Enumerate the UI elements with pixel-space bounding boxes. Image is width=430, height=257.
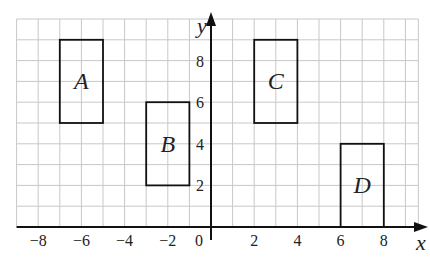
x-tick-label: −2 xyxy=(159,232,176,249)
axes: yx xyxy=(17,12,428,255)
x-tick-label: −4 xyxy=(116,232,133,249)
x-tick-label: 6 xyxy=(337,232,345,249)
y-tick-label: 2 xyxy=(196,177,204,194)
origin-label: 0 xyxy=(195,232,203,249)
x-tick-label: 4 xyxy=(293,232,301,249)
y-tick-label: 8 xyxy=(196,53,204,70)
x-tick-label: 2 xyxy=(250,232,258,249)
x-tick-label: −6 xyxy=(73,232,90,249)
coordinate-grid-diagram: yx ABCD −8−6−4−2246802468 xyxy=(0,0,430,257)
x-tick-label: −8 xyxy=(30,232,47,249)
rectangle-label-d: D xyxy=(353,172,371,198)
rectangles: ABCD xyxy=(60,40,384,227)
rectangle-label-c: C xyxy=(268,68,285,94)
rectangle-label-b: B xyxy=(160,131,175,157)
x-axis-label: x xyxy=(415,230,426,255)
y-axis-label: y xyxy=(195,13,207,38)
x-tick-label: 8 xyxy=(380,232,388,249)
y-tick-label: 4 xyxy=(196,136,204,153)
y-tick-label: 6 xyxy=(196,94,204,111)
rectangle-label-a: A xyxy=(72,68,89,94)
